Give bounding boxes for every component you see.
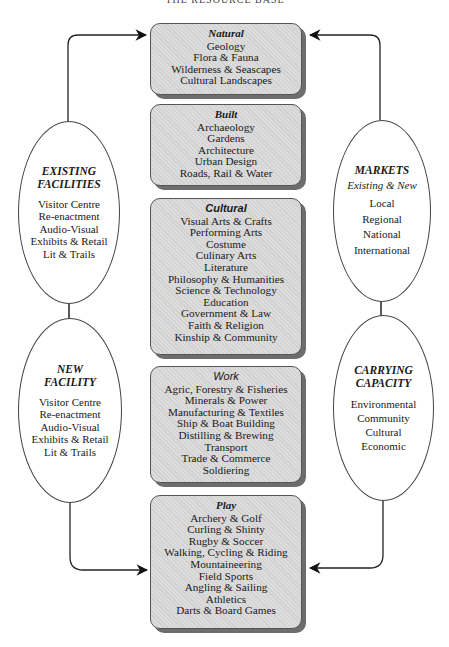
category-item: Roads, Rail & Water [151,168,301,180]
category-title: Cultural [151,203,301,215]
category-box-work: Work Agric, Forestry & Fisheries Mineral… [150,366,302,483]
ellipse-subtitle: Existing & New [347,179,417,192]
category-item: Darts & Board Games [151,605,301,617]
ellipse-item: Lit & Trails [31,248,108,261]
ellipse-item: Local [354,196,410,212]
ellipse-item: Cultural [351,425,416,439]
ellipse-title: FACILITY [44,376,96,389]
ellipse-item: Lit & Trails [32,446,109,459]
category-box-natural: Natural Geology Flora & Fauna Wilderness… [150,23,302,95]
ellipse-item: Visitor Centre [31,198,108,211]
ellipse-item: Economic [351,439,416,453]
category-box-built: Built Archaeology Gardens Architecture U… [150,104,302,186]
ellipse-item: Community [351,411,416,425]
ellipse-new-facility: NEW FACILITY Visitor Centre Re-enactment… [18,318,122,503]
category-item: Kinship & Community [151,332,301,344]
ellipse-title: EXISTING [42,165,96,178]
ellipse-title: FACILITIES [37,178,101,191]
category-title: Natural [151,28,301,40]
category-box-cultural: Cultural Visual Arts & Crafts Performing… [150,198,302,355]
category-item: Soldiering [151,465,301,477]
ellipse-item: Environmental [351,397,416,411]
ellipse-item: Regional [354,212,410,228]
category-item: Science & Technology [151,285,301,297]
category-title: Work [151,371,301,383]
category-item: Cultural Landscapes [151,75,301,87]
ellipse-item: Re-enactment [31,210,108,223]
ellipse-markets: MARKETS Existing & New Local Regional Na… [333,120,431,302]
category-item: Literature [151,262,301,274]
category-item: Faith & Religion [151,320,301,332]
ellipse-item: Audio-Visual [32,421,109,434]
ellipse-item: Re-enactment [32,408,109,421]
ellipse-item: Audio-Visual [31,223,108,236]
category-title: Built [151,109,301,121]
ellipse-title: NEW [57,363,83,376]
ellipse-title: MARKETS [355,164,409,177]
ellipse-item: Visitor Centre [32,396,109,409]
category-item: Angling & Sailing [151,582,301,594]
ellipse-item: Exhibits & Retail [32,433,109,446]
category-item: Mountaineering [151,559,301,571]
category-item: Distilling & Brewing [151,430,301,442]
ellipse-title: CARRYING [354,364,413,377]
ellipse-item: National [354,227,410,243]
ellipse-item: Exhibits & Retail [31,235,108,248]
ellipse-title: CAPACITY [356,377,411,390]
ellipse-existing-facilities: EXISTING FACILITIES Visitor Centre Re-en… [18,121,120,304]
ellipse-item: International [354,243,410,259]
category-box-play: Play Archery & Golf Curling & Shinty Rug… [150,495,302,629]
ellipse-carrying-capacity: CARRYING CAPACITY Environmental Communit… [333,315,434,501]
category-item: Trade & Commerce [151,453,301,465]
category-title: Play [151,500,301,512]
